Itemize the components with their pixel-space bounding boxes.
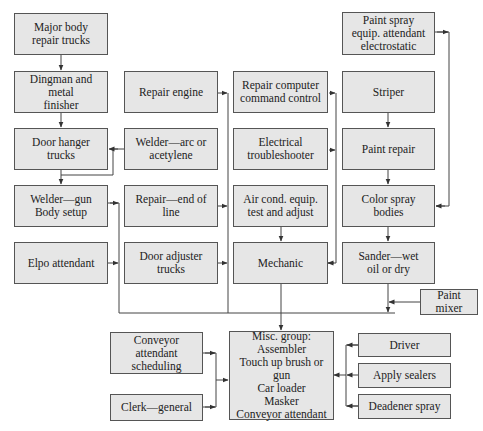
box-label: Door hanger trucks xyxy=(32,136,90,162)
box-repair-computer: Repair computer command control xyxy=(233,71,328,113)
box-label: Conveyor attendant scheduling xyxy=(132,334,182,373)
box-clerk-general: Clerk—general xyxy=(110,394,203,421)
box-label: Deadener spray xyxy=(369,400,441,413)
box-misc-group: Misc. group: Assembler Touch up brush or… xyxy=(229,331,334,420)
box-apply-sealers: Apply sealers xyxy=(358,363,451,388)
box-label: Repair computer command control xyxy=(240,79,321,105)
box-air-cond: Air cond. equip. test and adjust xyxy=(233,185,328,227)
box-label: Mechanic xyxy=(258,257,303,270)
box-label: Welder—gun Body setup xyxy=(30,193,92,219)
box-conveyor-scheduling: Conveyor attendant scheduling xyxy=(110,332,203,374)
box-label: Paint spray equip. attendant electrostat… xyxy=(352,14,425,53)
box-label: Air cond. equip. test and adjust xyxy=(243,193,318,219)
box-label: Paint repair xyxy=(362,143,415,156)
box-color-spray: Color spray bodies xyxy=(342,185,435,227)
box-label: Striper xyxy=(373,86,404,99)
box-mechanic: Mechanic xyxy=(233,242,328,284)
box-deadener-spray: Deadener spray xyxy=(358,394,451,419)
box-label: Clerk—general xyxy=(121,401,192,414)
box-repair-end: Repair—end of line xyxy=(124,185,218,227)
box-dingman: Dingman and metal finisher xyxy=(14,71,108,113)
box-electrical: Electrical troubleshooter xyxy=(233,128,328,170)
box-label: Paint mixer xyxy=(424,289,474,315)
box-welder-arc: Welder—arc or acetylene xyxy=(124,128,218,170)
box-door-hanger: Door hanger trucks xyxy=(14,128,108,170)
box-major-body-repair: Major body repair trucks xyxy=(14,13,108,55)
box-door-adjuster: Door adjuster trucks xyxy=(124,242,218,284)
box-label: Elpo attendant xyxy=(28,257,95,270)
box-label: Sander—wet oil or dry xyxy=(358,250,418,276)
box-paint-repair: Paint repair xyxy=(342,128,435,170)
box-label: Welder—arc or acetylene xyxy=(136,136,207,162)
box-striper: Striper xyxy=(342,71,435,113)
box-sander: Sander—wet oil or dry xyxy=(342,242,435,284)
box-label: Door adjuster trucks xyxy=(140,250,203,276)
box-label: Misc. group: Assembler Touch up brush or… xyxy=(233,330,330,421)
box-paint-mixer: Paint mixer xyxy=(420,289,478,315)
box-label: Dingman and metal finisher xyxy=(18,73,104,112)
box-label: Apply sealers xyxy=(373,369,436,382)
box-welder-gun: Welder—gun Body setup xyxy=(14,185,108,227)
box-label: Electrical troubleshooter xyxy=(247,136,313,162)
box-label: Driver xyxy=(389,339,419,352)
box-label: Color spray bodies xyxy=(362,193,416,219)
box-label: Repair engine xyxy=(139,86,203,99)
box-label: Repair—end of line xyxy=(135,193,206,219)
box-driver: Driver xyxy=(358,333,451,357)
box-elpo: Elpo attendant xyxy=(14,242,108,284)
box-paint-spray: Paint spray equip. attendant electrostat… xyxy=(342,12,435,55)
box-repair-engine: Repair engine xyxy=(124,71,218,113)
box-label: Major body repair trucks xyxy=(32,21,90,47)
